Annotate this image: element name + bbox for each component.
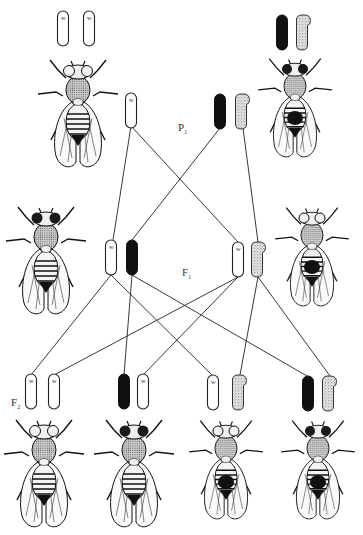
eye-red-left xyxy=(32,213,43,224)
line-f1y-to-f2c xyxy=(240,277,258,375)
chromosome-x-red xyxy=(127,240,138,275)
f2-offspring-4 xyxy=(281,376,355,519)
f2-fly-white-male xyxy=(189,421,263,519)
p1-female-chromosomes: w w xyxy=(58,11,95,46)
eye-white-right xyxy=(315,213,325,223)
line-f1mw-to-f2b xyxy=(143,277,238,375)
allele-label: w xyxy=(109,243,114,250)
eye-red-left xyxy=(120,426,131,437)
chromosome-x-white: w xyxy=(233,242,244,277)
eye-white-right xyxy=(229,426,239,436)
line-p1w-to-f1-female xyxy=(113,126,131,240)
chromosome-x-red xyxy=(119,374,130,409)
eye-white-left xyxy=(30,426,41,437)
p1-gametes: w xyxy=(126,93,250,129)
gamete-x-white: w xyxy=(126,93,137,128)
line-f1xr-to-f2b xyxy=(124,275,132,375)
f1-male-chromosomes: w xyxy=(233,242,266,277)
generation-label-f2: F2 xyxy=(11,396,20,410)
p1-female-fly xyxy=(38,60,118,167)
eye-red-right xyxy=(50,213,61,224)
p1-male-fly xyxy=(258,59,332,157)
chromosome-x-white: w xyxy=(208,375,219,410)
f2-fly-white-female xyxy=(4,420,84,527)
f1-male-fly xyxy=(275,208,349,306)
chromosome-y xyxy=(323,376,337,411)
allele-label: w xyxy=(52,377,57,384)
line-f1xr-to-f2d xyxy=(132,275,307,376)
chromosome-y xyxy=(233,375,247,410)
chromosome-x-white: w xyxy=(58,11,69,46)
allele-label: w xyxy=(141,377,146,384)
line-p1w-to-f1-male xyxy=(131,126,238,242)
eye-white-right xyxy=(82,66,93,77)
chromosome-y xyxy=(252,242,266,277)
f1-female-fly xyxy=(6,207,86,314)
f2-fly-red-male xyxy=(281,421,355,519)
eye-white-left xyxy=(213,426,223,436)
eye-red-right xyxy=(321,426,331,436)
line-p1y-to-f1-male xyxy=(243,128,258,242)
f2-fly-red-female xyxy=(94,420,174,527)
chromosome-y xyxy=(297,15,311,50)
eye-white-left xyxy=(64,66,75,77)
f2-offspring-3: w xyxy=(189,375,263,519)
eye-white-right xyxy=(48,426,59,437)
f2-offspring-2: w xyxy=(94,374,174,527)
chromosome-x-red xyxy=(277,15,288,50)
cross-lines xyxy=(31,126,330,376)
chromosome-x-white: w xyxy=(26,374,37,409)
generation-label-p1: P1 xyxy=(178,121,187,135)
allele-label: w xyxy=(29,377,34,384)
allele-label: w xyxy=(61,14,66,21)
chromosome-x-white: w xyxy=(84,11,95,46)
p1-male-chromosomes xyxy=(277,15,311,50)
gamete-y xyxy=(236,94,250,129)
allele-label: w xyxy=(129,96,134,103)
generation-label-f1: F1 xyxy=(182,266,191,280)
eye-red-left xyxy=(282,64,292,74)
line-p1xr-to-f1-female xyxy=(132,128,220,240)
chromosome-x-red xyxy=(303,376,314,411)
eye-red-right xyxy=(138,426,149,437)
chromosome-x-white: w xyxy=(49,374,60,409)
chromosome-x-white: w xyxy=(106,240,117,275)
eye-white-left xyxy=(299,213,309,223)
line-f1mw-to-f2a xyxy=(54,277,238,375)
f1-female-chromosomes: w xyxy=(106,240,138,275)
allele-label: w xyxy=(211,378,216,385)
line-f1w-to-f2c xyxy=(111,275,212,375)
allele-label: w xyxy=(87,14,92,21)
allele-label: w xyxy=(236,245,241,252)
eye-red-left xyxy=(305,426,315,436)
gamete-x-red xyxy=(215,94,226,129)
inheritance-diagram: w w w P1 w F1 xyxy=(0,0,363,535)
chromosome-x-white: w xyxy=(138,374,149,409)
eye-red-right xyxy=(298,64,308,74)
